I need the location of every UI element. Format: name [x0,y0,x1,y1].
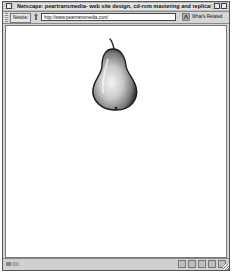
url-input[interactable]: http://www.peartransmedia.com/ [41,13,176,21]
window-title-text: Netscape: peartransmedia- web site desig… [15,3,211,9]
resize-handle[interactable] [223,264,229,270]
component-bar [166,260,226,268]
mail-icon[interactable] [198,260,206,268]
window-title: Netscape: peartransmedia- web site desig… [15,2,211,11]
netsite-label[interactable]: Netsite: [10,13,31,23]
related-icon [182,13,190,21]
whats-related-label: What's Related [192,13,222,21]
collapse-button[interactable] [221,3,227,9]
status-bar [3,258,229,270]
browser-window: Netscape: peartransmedia- web site desig… [2,1,230,271]
component-icon[interactable] [188,260,196,268]
toolbar-grip-handle[interactable] [5,13,8,22]
location-toolbar: Netsite: http://www.peartransmedia.com/ … [3,12,229,24]
composer-icon[interactable] [208,260,216,268]
pear-image [83,37,147,113]
page-proxy-icon[interactable] [33,13,39,21]
status-text [23,260,123,268]
page-content [5,25,227,258]
zoom-button[interactable] [214,3,220,9]
title-bar[interactable]: Netscape: peartransmedia- web site desig… [3,2,229,12]
close-button[interactable] [6,3,12,9]
whats-related-button[interactable]: What's Related [182,13,226,21]
security-icon[interactable] [178,260,186,268]
security-lock-icon[interactable] [6,261,20,267]
